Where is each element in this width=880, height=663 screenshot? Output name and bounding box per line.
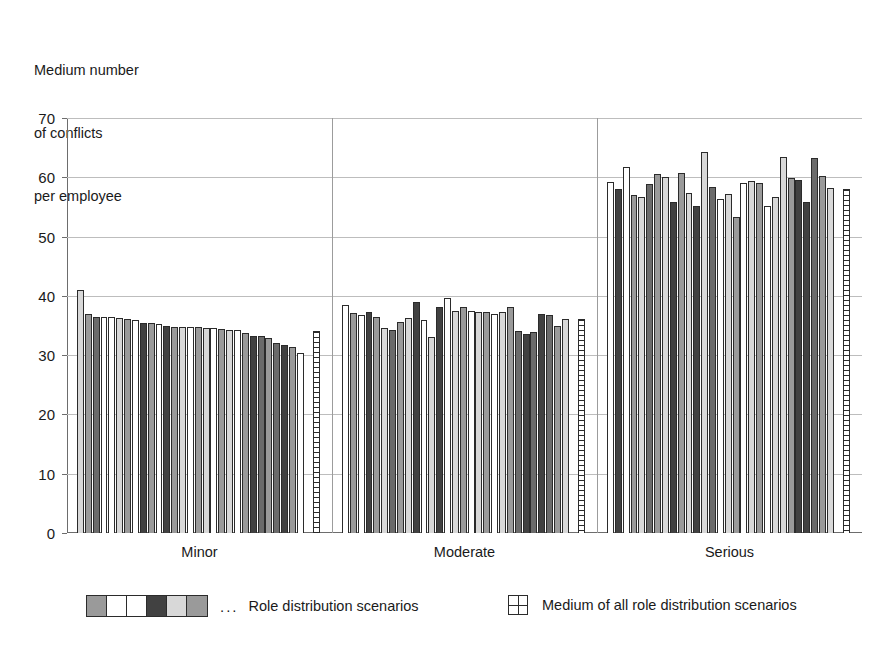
category-label-moderate: Moderate: [332, 543, 597, 561]
bar-scenario: [788, 178, 795, 533]
bar-scenario: [397, 322, 404, 533]
bar-scenario: [780, 157, 787, 533]
bar-scenario: [234, 330, 241, 533]
bar-scenario: [124, 319, 131, 533]
bar-scenario: [507, 307, 514, 533]
bar-scenario: [405, 318, 412, 533]
bar-scenario: [281, 345, 288, 533]
bar-scenario: [93, 317, 100, 533]
bar-scenario: [366, 312, 373, 533]
legend-swatch-cell: [187, 596, 207, 616]
bar-scenario: [101, 317, 108, 533]
bar-scenario: [646, 184, 653, 533]
legend-swatch-medium: [508, 595, 528, 615]
bar-scenario: [171, 327, 178, 533]
plot-frame: [67, 118, 862, 533]
bar-scenario: [638, 197, 645, 533]
bar-scenario: [148, 323, 155, 533]
bar-scenario: [85, 314, 92, 533]
bar-scenario: [499, 312, 506, 533]
bar-scenario: [358, 315, 365, 533]
y-tick-label: 10: [15, 467, 55, 482]
legend-label-medium: Medium of all role distribution scenario…: [542, 597, 797, 613]
bar-scenario: [607, 182, 614, 533]
bar-medium: [578, 319, 585, 533]
bar-scenario: [179, 327, 186, 533]
bar-scenario: [389, 330, 396, 533]
group-separator: [597, 118, 598, 533]
legend-entry-scenarios: ... Role distribution scenarios: [86, 595, 419, 617]
bar-scenario: [733, 217, 740, 533]
bar-scenario: [523, 334, 530, 533]
legend-dots: ...: [220, 598, 239, 615]
bar-scenario: [748, 181, 755, 533]
bar-scenario: [530, 332, 537, 533]
bar-scenario: [460, 307, 467, 533]
bar-scenario: [615, 189, 622, 533]
legend-swatch-cell: [127, 596, 147, 616]
bar-scenario: [631, 195, 638, 533]
bar-scenario: [187, 327, 194, 533]
bar-scenario: [546, 315, 553, 533]
bar-scenario: [265, 338, 272, 533]
bar-scenario: [468, 311, 475, 533]
bar-scenario: [819, 176, 826, 533]
bar-scenario: [195, 327, 202, 533]
bar-scenario: [226, 330, 233, 533]
bar-scenario: [77, 290, 84, 533]
bar-scenario: [428, 337, 435, 533]
category-label-minor: Minor: [67, 543, 332, 561]
legend-swatch-cell: [107, 596, 127, 616]
bar-scenario: [483, 312, 490, 533]
chart-root: Medium number of conflicts per employee …: [0, 0, 880, 663]
legend-swatch-cell: [167, 596, 187, 616]
bar-scenario: [764, 206, 771, 533]
y-tick-label: 20: [15, 407, 55, 422]
bar-scenario: [108, 317, 115, 533]
bar-scenario: [156, 324, 163, 533]
bar-scenario: [491, 314, 498, 533]
y-tick-label: 30: [15, 348, 55, 363]
bar-scenario: [342, 305, 349, 533]
chart-legend: ... Role distribution scenarios Medium o…: [0, 595, 880, 635]
bar-scenario: [242, 333, 249, 533]
bar-scenario: [218, 329, 225, 533]
bar-scenario: [686, 193, 693, 533]
bar-scenario: [475, 312, 482, 533]
bar-scenario: [203, 328, 210, 533]
y-axis-title-line-1: Medium number: [34, 60, 139, 81]
bar-scenario: [373, 317, 380, 533]
y-tick-label: 60: [15, 170, 55, 185]
bar-scenario: [452, 311, 459, 533]
y-tick-mark: [62, 533, 67, 534]
y-tick-label: 40: [15, 289, 55, 304]
legend-label-scenarios: Role distribution scenarios: [249, 598, 419, 614]
bar-scenario: [811, 158, 818, 533]
bar-scenario: [163, 326, 170, 533]
bar-scenario: [554, 326, 561, 534]
bar-scenario: [709, 187, 716, 533]
bar-scenario: [803, 202, 810, 533]
plot-area: [67, 118, 862, 533]
bar-scenario: [210, 328, 217, 533]
bar-scenario: [116, 318, 123, 533]
bar-scenario: [670, 202, 677, 533]
legend-entry-medium: Medium of all role distribution scenario…: [508, 595, 797, 615]
bar-scenario: [258, 336, 265, 533]
bar-scenario: [350, 313, 357, 533]
bar-scenario: [662, 177, 669, 533]
bar-medium: [313, 331, 320, 533]
bar-scenario: [273, 343, 280, 533]
bar-scenario: [562, 319, 569, 533]
bar-scenario: [795, 180, 802, 533]
bar-scenario: [623, 167, 630, 533]
y-tick-label: 0: [15, 526, 55, 541]
bar-scenario: [701, 152, 708, 533]
bar-scenario: [538, 314, 545, 533]
bars-layer: [67, 118, 862, 533]
bar-scenario: [693, 206, 700, 533]
bar-scenario: [381, 328, 388, 533]
legend-swatch-cell: [147, 596, 167, 616]
bar-scenario: [297, 353, 304, 533]
bar-scenario: [132, 320, 139, 533]
